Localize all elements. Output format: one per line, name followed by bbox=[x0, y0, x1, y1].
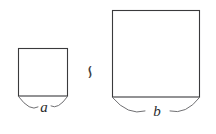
small-square-side-label: a bbox=[40, 99, 48, 115]
similar-squares-figure: a ∽ b bbox=[0, 0, 216, 134]
similar-to-symbol-group: ∽ bbox=[80, 64, 101, 80]
similar-to-icon: ∽ bbox=[80, 64, 101, 80]
large-square-side-label: b bbox=[153, 103, 161, 119]
large-square-outline bbox=[113, 11, 200, 98]
small-square-outline bbox=[19, 49, 68, 97]
small-square-group: a bbox=[19, 49, 68, 116]
figure-canvas: a ∽ b bbox=[0, 0, 216, 134]
